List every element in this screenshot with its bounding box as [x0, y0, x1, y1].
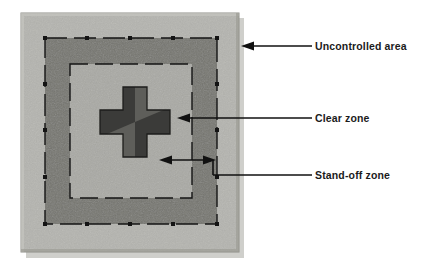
- label-uncontrolled-area: Uncontrolled area: [315, 41, 407, 52]
- label-clear-zone: Clear zone: [315, 113, 370, 124]
- figure-canvas: Uncontrolled area Clear zone Stand-off z…: [0, 0, 437, 272]
- label-stand-off-zone: Stand-off zone: [315, 170, 390, 181]
- callout-uncontrolled-area: [241, 42, 312, 51]
